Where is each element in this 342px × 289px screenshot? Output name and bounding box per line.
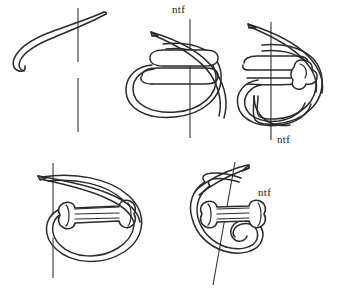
panel-2-ntf-label: ntf bbox=[172, 3, 185, 15]
knot-tying-figure: ntf ntf bbox=[0, 0, 342, 289]
figure-canvas: ntf ntf bbox=[0, 0, 342, 289]
panel-5-ntf-label: ntf bbox=[258, 186, 271, 198]
panel-3-ntf-label: ntf bbox=[277, 133, 290, 145]
panel-2-flat-loop bbox=[150, 50, 218, 66]
